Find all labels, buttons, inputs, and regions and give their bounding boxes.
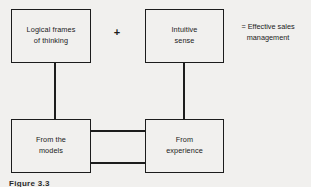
equals-result-label: = Effective sales management [228, 22, 308, 44]
equals-result-line2: management [228, 33, 308, 44]
box-from-the-models: From the models [11, 119, 91, 173]
box-intuitive-sense-line1: Intuitive [171, 25, 197, 36]
box-from-the-models-line1: From the [36, 135, 66, 146]
box-from-the-models-text: From the models [36, 135, 66, 156]
diagram-canvas: Logical frames of thinking + Intuitive s… [0, 0, 311, 187]
box-logical-frames-line1: Logical frames [27, 25, 76, 36]
box-logical-frames-line2: of thinking [27, 36, 76, 47]
connector-left-vertical [54, 62, 56, 120]
box-intuitive-sense-line2: sense [171, 36, 197, 47]
connector-right-vertical [183, 62, 185, 120]
box-intuitive-sense: Intuitive sense [145, 9, 224, 63]
plus-operator-icon: + [106, 27, 128, 38]
equals-result-line1: = Effective sales [228, 22, 308, 33]
box-logical-frames-text: Logical frames of thinking [27, 25, 76, 46]
figure-caption: Figure 3.3 [9, 179, 50, 187]
connector-bottom-upper [90, 130, 146, 132]
box-intuitive-sense-text: Intuitive sense [171, 25, 197, 46]
box-from-the-models-line2: models [36, 146, 66, 157]
box-from-experience-line2: experience [166, 146, 203, 157]
connector-bottom-lower [90, 162, 146, 164]
box-from-experience: From experience [145, 119, 224, 173]
box-from-experience-line1: From [166, 135, 203, 146]
box-logical-frames: Logical frames of thinking [11, 9, 91, 63]
box-from-experience-text: From experience [166, 135, 203, 156]
